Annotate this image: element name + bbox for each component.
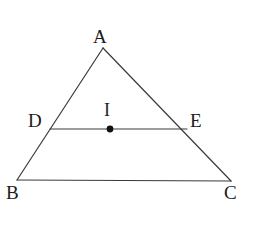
label-i: I	[104, 101, 110, 120]
point-i-dot	[107, 126, 114, 133]
segment-bc	[17, 180, 231, 181]
label-c: C	[224, 183, 237, 202]
label-d: D	[28, 111, 42, 130]
label-b: B	[6, 183, 19, 202]
label-e: E	[190, 111, 202, 130]
segment-ac	[103, 48, 231, 181]
geometry-figure: A B C D E I	[0, 0, 257, 228]
label-a: A	[93, 27, 107, 46]
